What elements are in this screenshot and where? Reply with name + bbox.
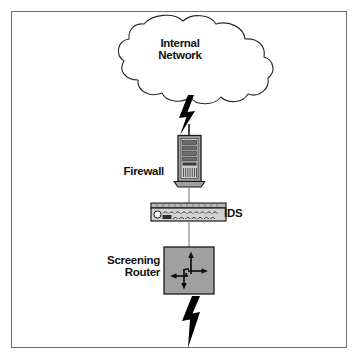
server-base bbox=[174, 182, 205, 188]
server-bay bbox=[183, 152, 197, 156]
internal-network-line-1: Internal bbox=[160, 37, 199, 49]
screening-router-line-2: Router bbox=[125, 266, 160, 278]
node-firewall-server[interactable] bbox=[174, 124, 205, 187]
node-label-screening-router: ScreeningRouter bbox=[12, 255, 160, 278]
server-bay bbox=[183, 141, 197, 145]
link-router-external-bolt bbox=[182, 296, 200, 348]
screening-router-line-1: Screening bbox=[107, 254, 160, 266]
node-label-firewall: Firewall bbox=[12, 166, 164, 178]
lightning-bolt-icon-bottom bbox=[182, 296, 200, 348]
diagram-frame: InternalNetwork Firewall IDS ScreeningRo… bbox=[11, 11, 347, 348]
node-label-internal-network: InternalNetwork bbox=[12, 38, 348, 61]
diagram-canvas bbox=[12, 12, 348, 349]
server-indicator-panel bbox=[183, 163, 197, 166]
node-screening-router-box[interactable] bbox=[164, 247, 214, 294]
node-label-ids: IDS bbox=[224, 208, 242, 220]
node-ids-appliance[interactable] bbox=[151, 203, 226, 221]
internal-network-line-2: Network bbox=[158, 49, 201, 61]
ids-top-rail bbox=[151, 203, 226, 208]
server-bay bbox=[183, 157, 197, 161]
ids-status-dial-icon bbox=[154, 211, 161, 218]
server-bay bbox=[183, 146, 197, 150]
ids-connector-block bbox=[163, 215, 172, 219]
server-vent-slots bbox=[184, 168, 197, 177]
figure-root: g bbox=[0, 0, 358, 359]
